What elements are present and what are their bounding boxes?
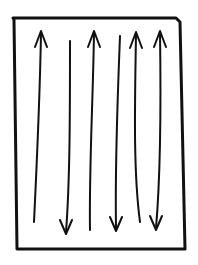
arrow-line-1	[34, 33, 41, 222]
arrow-line-2	[66, 41, 70, 232]
arrow-line-4	[116, 36, 120, 229]
arrow-line-3	[90, 33, 94, 230]
arrow-line-5	[135, 34, 140, 222]
scan-pattern-diagram	[0, 0, 198, 265]
arrow-line-6	[156, 33, 161, 228]
